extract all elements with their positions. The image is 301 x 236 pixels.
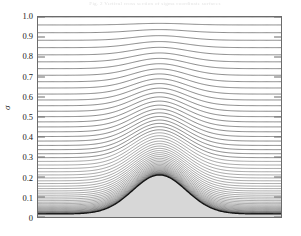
contour-line xyxy=(38,42,281,48)
contour-line xyxy=(38,101,281,122)
y-axis-tick-label: 0 xyxy=(7,214,33,223)
plot-frame xyxy=(37,16,282,218)
y-axis-tick-label: 0.3 xyxy=(7,153,33,162)
y-axis-tick-label: 0.5 xyxy=(7,113,33,122)
contour-plot xyxy=(38,17,281,217)
y-axis-tick-label: 0.2 xyxy=(7,173,33,182)
y-axis-tick-label: 0.8 xyxy=(7,52,33,61)
contour-line xyxy=(38,136,281,165)
contour-line xyxy=(38,79,281,94)
y-axis-tick-label: 0.7 xyxy=(7,72,33,81)
contour-line xyxy=(38,93,281,112)
contour-line xyxy=(38,47,281,54)
contour-line xyxy=(38,36,281,41)
contour-line xyxy=(38,30,281,33)
contour-line xyxy=(38,53,281,62)
y-axis-tick-label: 0.1 xyxy=(7,194,33,203)
y-axis-tick-label: 1.0 xyxy=(7,12,33,21)
y-axis-tick-label: 0.4 xyxy=(7,133,33,142)
figure-caption-top: Fig. 2 Vertical cross section of sigma c… xyxy=(55,1,255,10)
y-axis-tick-label: 0.9 xyxy=(7,32,33,41)
figure-container: Fig. 2 Vertical cross section of sigma c… xyxy=(0,0,301,236)
y-axis-tick-label: 0.6 xyxy=(7,93,33,102)
contour-line xyxy=(38,74,281,88)
contour-line xyxy=(38,133,281,162)
y-axis-tick-labels: 00.10.20.30.40.50.60.70.80.91.0 xyxy=(0,16,33,218)
contour-line xyxy=(38,84,281,100)
contour-line xyxy=(38,64,281,76)
contour-line xyxy=(38,23,281,25)
contour-line xyxy=(38,109,281,132)
